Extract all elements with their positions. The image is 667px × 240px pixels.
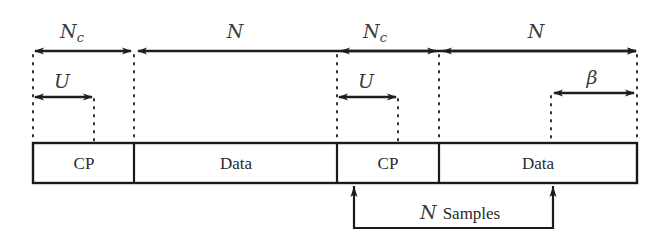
symbol-frame: CP Data CP Data	[33, 143, 637, 183]
ofdm-cp-diagram: Nc N Nc N U U β CP Data CP Data NSamples	[0, 0, 667, 240]
span-label-n-1: N	[226, 20, 245, 42]
fft-window-bracket: NSamples	[354, 186, 553, 228]
top-spans: Nc N Nc N	[35, 20, 636, 51]
guide-lines	[33, 55, 637, 141]
span-label-n-2: N	[527, 20, 546, 42]
span-label-nc-2: Nc	[362, 20, 388, 45]
segment-data-1: Data	[220, 154, 253, 173]
segment-cp-2: CP	[378, 154, 399, 173]
window-label: NSamples	[419, 201, 500, 223]
segment-data-2: Data	[522, 154, 555, 173]
inner-spans: U U β	[35, 66, 634, 97]
span-label-nc-1: Nc	[59, 20, 85, 45]
span-label-u-2: U	[358, 70, 375, 92]
span-label-u-1: U	[54, 70, 71, 92]
segment-cp-1: CP	[74, 154, 95, 173]
span-label-beta: β	[586, 66, 598, 88]
